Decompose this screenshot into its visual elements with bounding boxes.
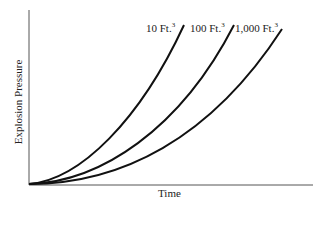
series-label-1000: 1,000 Ft.3 <box>235 21 278 34</box>
curve-1000-ft3 <box>29 29 282 184</box>
series-label-100: 100 Ft.3 <box>190 21 225 34</box>
curve-10-ft3 <box>29 25 184 184</box>
curve-100-ft3 <box>29 25 234 184</box>
series-label-10: 10 Ft.3 <box>146 21 175 34</box>
x-axis-label: Time <box>158 187 181 199</box>
y-axis-label: Explosion Pressure <box>12 52 24 152</box>
